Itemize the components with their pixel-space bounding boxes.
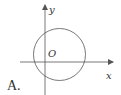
x-axis-label: x [106,70,112,81]
option-label: A. [7,78,21,93]
origin-label: O [48,48,56,59]
coordinate-diagram: y x O A. [0,0,121,95]
y-axis-label: y [48,4,55,15]
circle [34,29,86,81]
